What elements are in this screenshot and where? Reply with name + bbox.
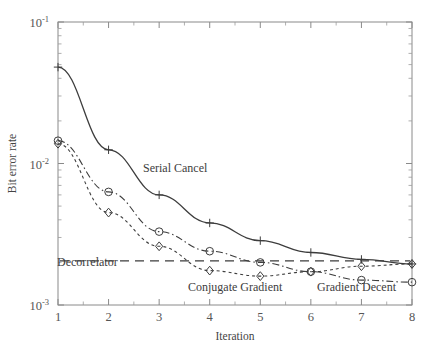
data-point-marker — [104, 146, 112, 154]
x-axis-tick-label: 8 — [409, 310, 415, 324]
y-axis-tick-label: 10-3 — [29, 297, 49, 313]
x-axis-tick-label: 2 — [105, 310, 111, 324]
x-axis-tick-label: 7 — [358, 310, 364, 324]
bit-error-rate-chart: 10-110-210-312345678IterationBit error r… — [0, 0, 430, 343]
y-axis-tick-label: 10-1 — [29, 14, 49, 30]
x-axis-tick-label: 5 — [257, 310, 263, 324]
x-axis-tick-label: 3 — [156, 310, 162, 324]
data-point-marker — [256, 236, 264, 244]
series-line — [58, 67, 412, 264]
data-point-marker — [155, 191, 163, 199]
x-axis-tick-label: 4 — [207, 310, 214, 324]
series-annotation-label: Decorrelator — [57, 255, 118, 269]
data-point-marker — [307, 248, 315, 256]
chart-canvas: 10-110-210-312345678IterationBit error r… — [0, 0, 430, 343]
data-point-marker — [206, 219, 214, 227]
x-axis-title: Iteration — [216, 330, 255, 342]
series-annotation-label: Conjugate Gradient — [188, 280, 283, 294]
x-axis-tick-label: 6 — [308, 310, 314, 324]
series-annotation-label: Serial Cancel — [143, 161, 208, 175]
x-axis-tick-label: 1 — [55, 310, 61, 324]
y-axis-title: Bit error rate — [6, 134, 18, 193]
series-serial-cancel — [54, 63, 416, 268]
data-point-marker — [54, 63, 62, 71]
y-axis-tick-label: 10-2 — [29, 156, 49, 172]
series-annotation-label: Gradient Decent — [317, 280, 397, 294]
